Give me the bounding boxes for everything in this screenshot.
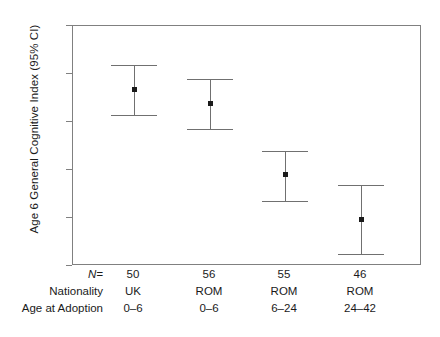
nationality-value: UK <box>98 285 168 297</box>
y-axis-title: Age 6 General Cognitive Index (95% CI) <box>28 4 40 254</box>
error-bar-lower-cap <box>262 201 308 202</box>
error-bar-upper-cap <box>187 79 233 80</box>
error-bar-lower-cap <box>187 129 233 130</box>
n-value: 56 <box>174 268 244 280</box>
row-n: N= 50565546 <box>0 268 440 285</box>
error-bar <box>255 26 315 266</box>
error-bar-upper-cap <box>338 185 384 186</box>
row-label-nationality: Nationality <box>0 285 103 297</box>
row-nationality: Nationality UKROMROMROM <box>0 285 440 302</box>
data-point-marker <box>132 87 137 92</box>
age-at-adoption-value: 24–42 <box>325 302 395 314</box>
n-value: 50 <box>98 268 168 280</box>
error-bar-upper-cap <box>262 151 308 152</box>
age-at-adoption-value: 0–6 <box>98 302 168 314</box>
error-bar <box>331 26 391 266</box>
age-at-adoption-value: 0–6 <box>174 302 244 314</box>
error-bar-lower-cap <box>111 115 157 116</box>
age-at-adoption-value: 6–24 <box>249 302 319 314</box>
n-value: 46 <box>325 268 395 280</box>
row-age-at-adoption: Age at Adoption 0–60–66–2424–42 <box>0 302 440 319</box>
x-axis-label-table: N= 50565546 Nationality UKROMROMROM Age … <box>0 268 440 319</box>
data-point-marker <box>283 172 288 177</box>
n-value: 55 <box>249 268 319 280</box>
row-label-age-at-adoption: Age at Adoption <box>0 302 103 314</box>
error-bar <box>104 26 164 266</box>
error-bar <box>180 26 240 266</box>
data-point-marker <box>208 101 213 106</box>
error-bar-upper-cap <box>111 65 157 66</box>
plot-area <box>72 25 421 265</box>
data-point-marker <box>359 217 364 222</box>
nationality-value: ROM <box>249 285 319 297</box>
error-bar-lower-cap <box>338 254 384 255</box>
row-label-n: N= <box>0 268 103 280</box>
error-bar-chart: Age 6 General Cognitive Index (95% CI) 8… <box>0 0 440 337</box>
nationality-value: ROM <box>174 285 244 297</box>
nationality-value: ROM <box>325 285 395 297</box>
